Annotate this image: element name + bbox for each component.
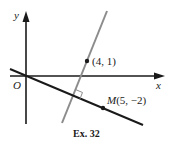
y-axis	[23, 11, 30, 124]
origin-label: O	[13, 79, 21, 91]
point-4-1-label: (4, 1)	[92, 55, 116, 68]
point-m-label: M(5, −2)	[106, 94, 147, 107]
point-m-coords: (5, −2)	[116, 94, 146, 107]
coordinate-diagram: (4, 1) M(5, −2) y x O Ex. 32	[0, 0, 171, 146]
point-m	[101, 106, 105, 110]
y-axis-arrow-icon	[23, 11, 30, 22]
figure-caption: Ex. 32	[73, 128, 100, 139]
y-axis-label: y	[13, 9, 19, 21]
point-4-1	[85, 59, 89, 63]
x-axis-label: x	[155, 79, 161, 91]
